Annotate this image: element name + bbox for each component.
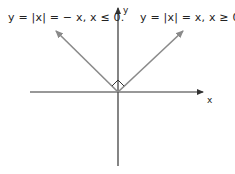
abs-value-graph — [0, 0, 235, 174]
left-branch-line — [56, 31, 118, 92]
left-branch-label: y = |x| = − x, x ≤ 0. — [8, 11, 124, 24]
right-branch-line — [118, 31, 183, 92]
right-branch-label: y = |x| = x, x ≥ 0. — [140, 11, 235, 24]
y-axis-label: y — [123, 5, 128, 15]
x-axis-label: x — [207, 95, 212, 105]
